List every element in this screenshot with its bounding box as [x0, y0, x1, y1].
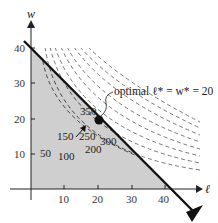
diagram-canvas: 10 20 30 40 10 20 30 40 w ℓ 50 100 150 2… — [0, 0, 218, 223]
y-tick-40: 40 — [14, 42, 26, 54]
contour-label-350: 350 — [80, 105, 97, 117]
contour-label-150: 150 — [57, 130, 74, 142]
contour-label-250: 250 — [79, 130, 96, 142]
optimal-annotation: optimal ℓ* = w* = 20 — [114, 85, 214, 98]
x-tick-30: 30 — [126, 193, 138, 205]
x-tick-40: 40 — [158, 193, 170, 205]
optimum-point — [95, 116, 104, 125]
y-axis-label: w — [27, 7, 35, 21]
contour-label-100: 100 — [58, 150, 75, 162]
y-tick-20: 20 — [14, 113, 26, 125]
x-tick-10: 10 — [58, 193, 70, 205]
y-tick-10: 10 — [14, 148, 26, 160]
y-tick-30: 30 — [14, 77, 26, 89]
contour-label-300: 300 — [100, 135, 117, 147]
x-axis-label: ℓ — [205, 182, 210, 196]
annotation-leader — [101, 92, 113, 116]
contour-label-50: 50 — [40, 147, 52, 159]
x-axis-arrow-icon — [196, 185, 203, 193]
x-tick-20: 20 — [92, 193, 104, 205]
